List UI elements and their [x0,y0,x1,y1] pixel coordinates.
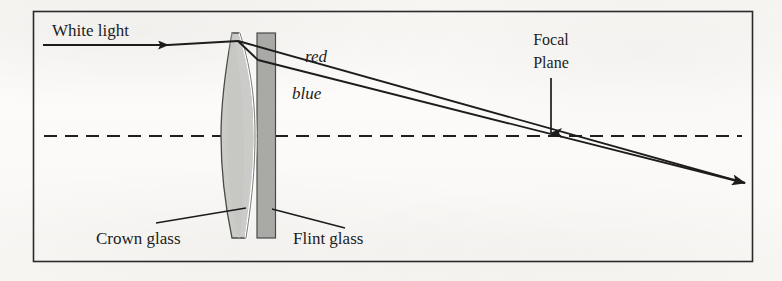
focal-plane-label-line2: Plane [533,54,569,71]
white-light-label: White light [52,21,129,40]
white-light-ray-continued [168,41,238,45]
optics-diagram: White light red blue Focal Plane Crown g… [0,0,782,281]
figure-page: White light red blue Focal Plane Crown g… [0,0,782,281]
focal-plane-label-line1: Focal [533,31,569,48]
blue-ray-label: blue [292,84,322,103]
red-ray-label: red [305,47,328,66]
crown-glass-label: Crown glass [96,229,181,248]
flint-glass-leader [272,209,345,228]
blue-ray-refracted [258,60,745,183]
flint-glass-label: Flint glass [293,229,363,248]
